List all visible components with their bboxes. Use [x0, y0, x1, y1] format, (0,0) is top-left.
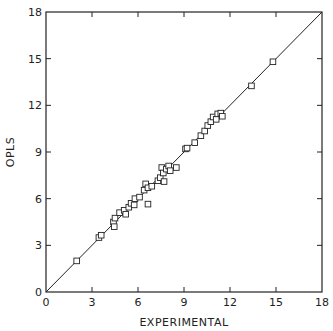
data-point	[149, 183, 155, 189]
y-tick-label: 6	[35, 193, 42, 206]
x-tick-label: 0	[43, 296, 50, 309]
data-point	[161, 179, 167, 185]
y-tick-label: 18	[28, 6, 42, 19]
x-tick-label: 9	[181, 296, 188, 309]
y-axis-ticks: 0369121518	[28, 6, 322, 299]
data-point	[145, 201, 151, 207]
data-point	[220, 113, 226, 119]
x-axis-title: EXPERIMENTAL	[139, 316, 229, 329]
data-point	[111, 224, 117, 230]
data-point	[202, 128, 208, 134]
data-point	[131, 202, 137, 208]
x-tick-label: 12	[223, 296, 237, 309]
data-point	[123, 211, 129, 217]
scatter-chart: 0369121518 0369121518 EXPERIMENTAL OPLS	[0, 0, 333, 331]
data-point	[74, 258, 80, 264]
data-point	[270, 59, 276, 65]
data-point	[213, 117, 219, 123]
y-tick-label: 9	[35, 146, 42, 159]
x-axis-ticks: 0369121518	[43, 12, 330, 309]
data-point	[174, 165, 180, 171]
x-tick-label: 6	[135, 296, 142, 309]
data-point	[98, 232, 104, 238]
y-tick-label: 3	[35, 239, 42, 252]
x-tick-label: 18	[315, 296, 329, 309]
y-tick-label: 15	[28, 53, 42, 66]
data-point	[137, 194, 143, 200]
y-axis-title: OPLS	[4, 137, 17, 167]
x-tick-label: 3	[89, 296, 96, 309]
data-point	[184, 145, 190, 151]
data-point	[249, 83, 255, 89]
y-tick-label: 0	[35, 286, 42, 299]
data-point	[112, 215, 118, 221]
data-point	[192, 140, 198, 146]
x-tick-label: 15	[269, 296, 283, 309]
data-point	[167, 168, 173, 174]
y-tick-label: 12	[28, 99, 42, 112]
